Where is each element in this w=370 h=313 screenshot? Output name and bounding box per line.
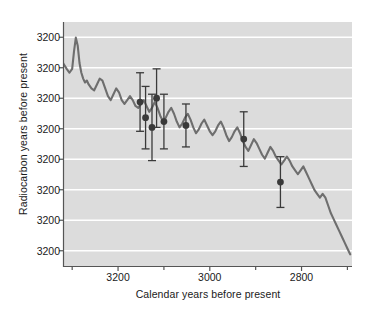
plot-background — [63, 22, 352, 266]
y-axis-title: Radiocarbon years before present — [17, 19, 29, 249]
x-tick-label: 2800 — [275, 272, 329, 283]
radiocarbon-calibration-chart: 32003200320032003200320032003200 3200300… — [0, 0, 370, 313]
x-tick-label: 3200 — [91, 272, 145, 283]
x-tick-label: 3000 — [183, 272, 237, 283]
x-axis-title: Calendar years before present — [63, 288, 353, 300]
